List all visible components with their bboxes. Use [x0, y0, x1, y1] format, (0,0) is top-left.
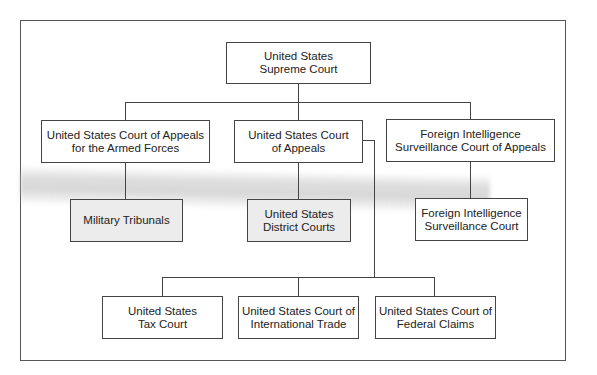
node-label-line1: United States: [260, 50, 338, 63]
node-district-courts: United States District Courts: [247, 199, 351, 242]
connector-to-claims: [434, 277, 435, 296]
node-label-line2: Tax Court: [128, 318, 197, 331]
node-label-line1: United States Court: [248, 129, 348, 142]
connector-appeals-side: [362, 140, 374, 141]
connector-to-fiscr: [470, 102, 471, 120]
node-label-line1: United States Court of: [379, 305, 492, 318]
node-supreme-court: United States Supreme Court: [226, 42, 371, 84]
node-court-of-federal-claims: United States Court of Federal Claims: [375, 296, 496, 339]
connector-to-caaf: [125, 102, 126, 120]
node-label-line2: District Courts: [263, 221, 335, 234]
connector-to-tax: [162, 277, 163, 296]
connector-to-trade: [298, 277, 299, 296]
node-label-line1: Foreign Intelligence: [421, 207, 521, 220]
node-label-line2: Federal Claims: [379, 318, 492, 331]
node-label-line1: Military Tribunals: [83, 214, 169, 227]
node-label-line1: United States: [263, 208, 335, 221]
connector-appeals-trunk: [374, 140, 375, 278]
node-fisc: Foreign Intelligence Surveillance Court: [415, 198, 528, 241]
node-label-line1: United States: [128, 305, 197, 318]
connector-level1-bar: [125, 102, 471, 103]
node-label-line2: for the Armed Forces: [47, 142, 204, 155]
connector-fiscr-fisc: [470, 162, 471, 199]
node-court-of-appeals-armed-forces: United States Court of Appeals for the A…: [41, 120, 210, 163]
node-label-line2: Supreme Court: [260, 63, 338, 76]
node-label-line2: of Appeals: [248, 142, 348, 155]
node-military-tribunals: Military Tribunals: [70, 199, 183, 242]
node-fisc-of-appeals: Foreign Intelligence Surveillance Court …: [386, 119, 555, 162]
node-court-of-appeals: United States Court of Appeals: [234, 120, 363, 163]
node-label-line2: Surveillance Court of Appeals: [395, 141, 546, 154]
connector-appeals-district: [298, 162, 299, 199]
node-court-of-international-trade: United States Court of International Tra…: [238, 296, 359, 339]
node-label-line1: United States Court of Appeals: [47, 129, 204, 142]
node-label-line1: Foreign Intelligence: [395, 128, 546, 141]
node-label-line1: United States Court of: [242, 305, 355, 318]
node-tax-court: United States Tax Court: [102, 296, 223, 339]
connector-caaf-military: [125, 162, 126, 199]
node-label-line2: International Trade: [242, 318, 355, 331]
node-label-line2: Surveillance Court: [421, 220, 521, 233]
